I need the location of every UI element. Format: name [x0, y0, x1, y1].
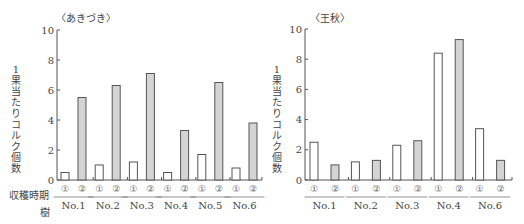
- harvest-period-label: ①: [310, 184, 318, 194]
- y-tick-label: 8: [48, 55, 54, 66]
- bar: [78, 98, 86, 181]
- bar: [61, 173, 69, 181]
- bar: [497, 160, 505, 180]
- bar-plot-oshu: 0246810①②No.1①②No.2①②No.3①②No.4①②No.6: [262, 0, 524, 224]
- y-tick-label: 4: [296, 114, 302, 125]
- harvest-period-label: ①: [393, 184, 401, 194]
- bar: [95, 165, 103, 180]
- chart-akizuki: 〈あきづき〉 1果当たりコルク個数 収穫時期 樹 0246810①②No.1①②…: [0, 0, 262, 224]
- y-tick-label: 6: [48, 85, 54, 96]
- bar: [331, 165, 339, 180]
- harvest-period-label: ②: [372, 184, 380, 194]
- tree-label: No.3: [395, 200, 419, 211]
- harvest-period-label: ②: [414, 184, 422, 194]
- harvest-period-label: ①: [164, 184, 172, 194]
- bar: [393, 145, 401, 180]
- bar: [112, 86, 120, 181]
- harvest-period-label: ②: [331, 184, 339, 194]
- chart-oshu: 〈王秋〉 1果当たりコルク個数 0246810①②No.1①②No.2①②No.…: [262, 0, 524, 224]
- harvest-period-label: ①: [476, 184, 484, 194]
- y-tick-label: 2: [48, 145, 54, 156]
- tree-label: No.1: [61, 200, 85, 211]
- y-tick-label: 0: [296, 175, 302, 186]
- y-tick-label: 10: [41, 25, 54, 36]
- bar: [232, 168, 240, 180]
- tree-label: No.5: [198, 200, 222, 211]
- harvest-period-label: ②: [455, 184, 463, 194]
- harvest-period-label: ①: [129, 184, 137, 194]
- bar: [164, 173, 172, 181]
- y-tick-label: 10: [289, 24, 302, 35]
- y-tick-label: 2: [296, 144, 302, 155]
- tree-label: No.4: [437, 200, 461, 211]
- harvest-period-label: ①: [351, 184, 359, 194]
- harvest-period-label: ①: [95, 184, 103, 194]
- tree-label: No.2: [96, 200, 120, 211]
- harvest-period-label: ②: [112, 184, 120, 194]
- bar: [198, 155, 206, 181]
- y-tick-label: 4: [48, 115, 54, 126]
- harvest-period-label: ①: [61, 184, 69, 194]
- bar: [351, 162, 359, 180]
- y-tick-label: 6: [296, 84, 302, 95]
- harvest-period-label: ②: [249, 184, 257, 194]
- bar: [414, 141, 422, 180]
- tree-label: No.3: [130, 200, 154, 211]
- harvest-period-label: ①: [434, 184, 442, 194]
- harvest-period-label: ②: [181, 184, 189, 194]
- harvest-period-label: ①: [198, 184, 206, 194]
- tree-label: No.2: [354, 200, 378, 211]
- bar: [455, 40, 463, 180]
- bar: [215, 83, 223, 181]
- harvest-period-label: ②: [497, 184, 505, 194]
- bar: [476, 129, 484, 180]
- bar: [181, 131, 189, 181]
- tree-label: No.1: [312, 200, 336, 211]
- harvest-period-label: ②: [146, 184, 154, 194]
- tree-label: No.6: [232, 200, 256, 211]
- bar: [372, 160, 380, 180]
- harvest-period-label: ②: [215, 184, 223, 194]
- tree-label: No.6: [478, 200, 502, 211]
- bar: [146, 74, 154, 181]
- y-tick-label: 0: [48, 175, 54, 186]
- harvest-period-label: ①: [232, 184, 240, 194]
- bar: [310, 142, 318, 180]
- bar: [249, 123, 257, 180]
- harvest-period-label: ②: [78, 184, 86, 194]
- bar: [434, 53, 442, 180]
- bar: [129, 162, 137, 180]
- y-tick-label: 8: [296, 54, 302, 65]
- tree-label: No.4: [164, 200, 188, 211]
- bar-plot-akizuki: 0246810①②No.1①②No.2①②No.3①②No.4①②No.5①②N…: [0, 0, 262, 224]
